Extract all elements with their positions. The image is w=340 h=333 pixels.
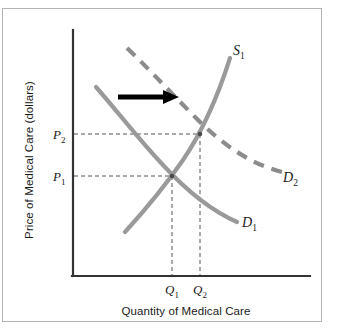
x-axis-title: Quantity of Medical Care xyxy=(122,305,251,317)
supply-demand-chart: S1 D1 D2 P2 P1 Q1 Q2 Quantity of Medical… xyxy=(0,0,340,333)
equilibrium-point-new xyxy=(198,132,203,137)
equilibrium-point-initial xyxy=(170,174,175,179)
y-axis-title: Price of Medical Care (dollars) xyxy=(23,81,35,239)
figure-container: S1 D1 D2 P2 P1 Q1 Q2 Quantity of Medical… xyxy=(0,0,340,333)
